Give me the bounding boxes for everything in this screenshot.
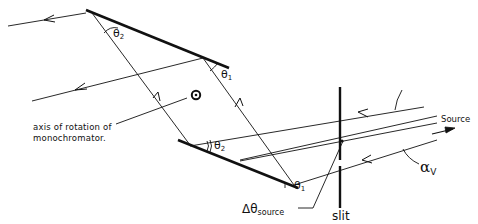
outgoing-beam-top (8, 13, 86, 26)
axis-of-rotation-label: axis of rotation of monochromator. (33, 122, 112, 144)
arrow-icon (235, 98, 243, 107)
theta2-top-label: θ2 (113, 28, 124, 41)
theta1-bottom-label: θ1 (294, 180, 305, 193)
alpha-pointer-lower (403, 149, 419, 164)
axis-label-line2: monochromator. (33, 133, 112, 144)
source-label: Source (441, 115, 470, 124)
arrow-icon (445, 127, 455, 133)
slit-point (340, 139, 343, 142)
delta-theta-source-label: Δθsource (242, 203, 284, 217)
bottom-crystal (178, 140, 298, 188)
slit-label: slit (332, 210, 350, 222)
alpha-v-label: αV (420, 160, 436, 177)
incident-beam-source-1 (240, 116, 437, 160)
axis-label-line1: axis of rotation of (33, 122, 112, 133)
alpha-pointer-upper (395, 90, 402, 110)
arrow-icon (358, 109, 368, 117)
outgoing-beam-middle (32, 58, 203, 101)
angle-arc-theta2-bottom-b (210, 140, 212, 152)
theta2-bottom-label: θ2 (214, 140, 225, 153)
axis-dot (195, 94, 198, 97)
angle-arc-theta1-top (210, 63, 218, 71)
top-crystal (86, 10, 229, 68)
ray-top-to-bottom-right (203, 58, 294, 185)
theta1-top-label: θ1 (221, 69, 232, 82)
arrow-icon (362, 155, 372, 163)
monochromator-diagram (0, 0, 478, 224)
axis-leader-line (116, 98, 187, 124)
delta-theta-leader (298, 141, 343, 208)
